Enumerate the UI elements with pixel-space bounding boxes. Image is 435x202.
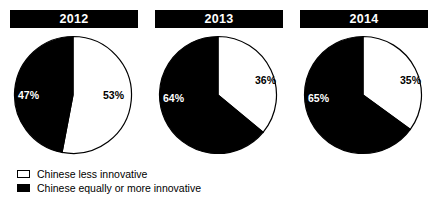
pie-slice-label-2013-dark: 64% xyxy=(163,93,184,104)
legend-label-less-innovative: Chinese less innovative xyxy=(37,169,147,180)
legend-item-less-innovative: Chinese less innovative xyxy=(17,168,317,180)
panel-title-2012: 2012 xyxy=(10,10,138,28)
pie-slice-label-2014-light: 35% xyxy=(400,75,421,86)
pie-slice-label-2012-dark: 47% xyxy=(18,90,39,101)
pie-slice-label-2014-dark: 65% xyxy=(308,93,329,104)
legend-item-equally-or-more-innovative: Chinese equally or more innovative xyxy=(17,182,317,194)
pie-slice-label-2012-light: 53% xyxy=(103,90,124,101)
chart-legend: Chinese less innovative Chinese equally … xyxy=(17,168,317,196)
legend-label-equally-or-more-innovative: Chinese equally or more innovative xyxy=(37,183,201,194)
panel-title-2013: 2013 xyxy=(155,10,283,28)
pie-panel-2014: 2014 65% 35% xyxy=(290,0,435,162)
pie-slice-label-2013-light: 36% xyxy=(255,75,276,86)
legend-swatch-white-icon xyxy=(17,170,30,178)
legend-swatch-black-icon xyxy=(17,184,30,192)
pie-panel-2013: 2013 64% 36% xyxy=(145,0,290,162)
pie-chart-figure: 2012 47% 53% 2013 64% 36% 2014 65% 35% xyxy=(0,0,435,202)
pie-panel-2012: 2012 47% 53% xyxy=(0,0,145,162)
panel-title-2014: 2014 xyxy=(300,10,428,28)
